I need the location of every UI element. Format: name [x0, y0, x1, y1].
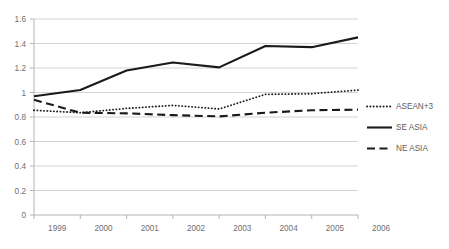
x-tick-label: 2002	[187, 224, 206, 233]
y-tick-label: 1.2	[15, 64, 27, 73]
line-chart: 1.6 1.4 1.2 1 0.8 0.6 0.4 0.2 0 1999 200…	[0, 0, 449, 249]
x-tick-label: 2001	[141, 224, 160, 233]
x-tick-label: 2004	[279, 224, 298, 233]
y-tick-label: 0.2	[15, 187, 27, 196]
x-tick-label: 2000	[94, 224, 113, 233]
y-axis-labels: 1.6 1.4 1.2 1 0.8 0.6 0.4 0.2 0	[15, 15, 27, 220]
x-tick-label: 2005	[326, 224, 345, 233]
chart-background	[0, 0, 449, 249]
x-tick-label: 1999	[48, 224, 67, 233]
y-tick-label: 0.8	[15, 113, 27, 122]
x-tick-label: 2003	[233, 224, 252, 233]
legend-label: ASEAN+3	[396, 102, 434, 111]
legend-label: NE ASIA	[396, 144, 428, 153]
y-tick-label: 1.4	[15, 40, 27, 49]
chart-svg: 1.6 1.4 1.2 1 0.8 0.6 0.4 0.2 0 1999 200…	[0, 0, 449, 249]
y-tick-label: 0.6	[15, 138, 27, 147]
y-tick-label: 0.4	[15, 162, 27, 171]
y-tick-label: 0	[21, 211, 26, 220]
y-tick-label: 1.6	[15, 15, 27, 24]
legend-label: SE ASIA	[396, 123, 428, 132]
y-tick-label: 1	[21, 89, 26, 98]
x-tick-label: 2006	[372, 224, 391, 233]
